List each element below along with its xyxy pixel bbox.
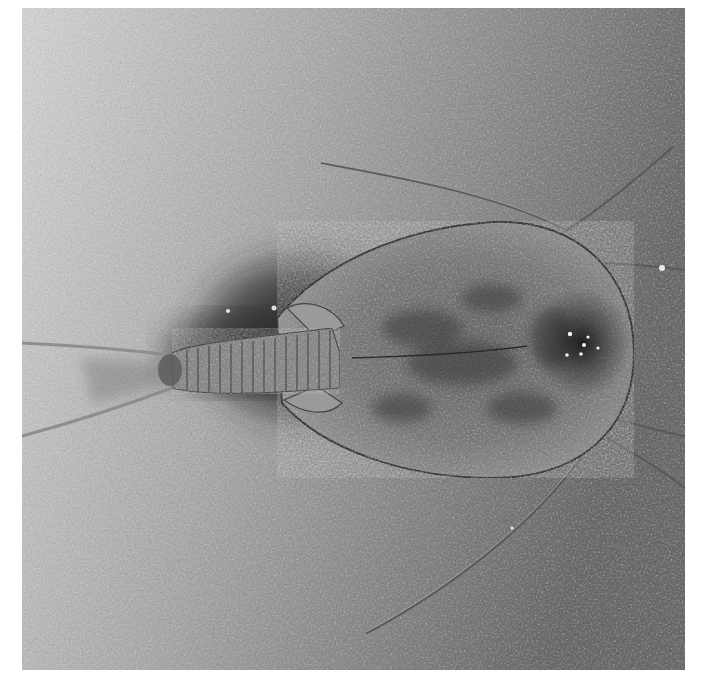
photograph xyxy=(22,8,685,670)
triops-photo-illustration xyxy=(22,8,685,670)
